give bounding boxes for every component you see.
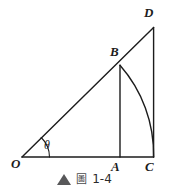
arc-BC bbox=[120, 65, 154, 157]
figure-number: 1-4 bbox=[92, 173, 112, 185]
figure-label-glyph: 圖 bbox=[76, 174, 87, 185]
vertex-label-B: B bbox=[110, 45, 119, 58]
angle-label-theta: θ bbox=[44, 139, 50, 151]
figure-caption: 圖 1-4 bbox=[0, 168, 169, 190]
geometry-diagram-svg bbox=[0, 0, 169, 193]
geometry-figure: O A C B D θ 圖 1-4 bbox=[0, 0, 169, 193]
vertex-label-D: D bbox=[144, 6, 153, 19]
solid-triangle-icon bbox=[57, 174, 71, 185]
